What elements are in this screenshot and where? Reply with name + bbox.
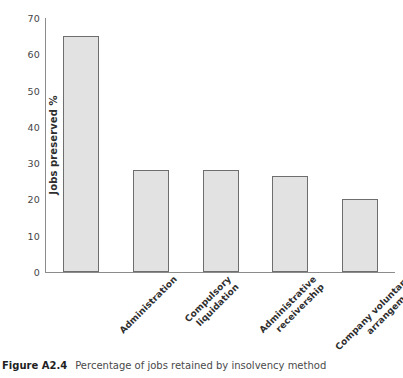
x-axis-labels: AdministrationCompulsoryliquidationAdmin… xyxy=(46,274,395,344)
figure-container: Jobs preserved % 706050403020100 Adminis… xyxy=(0,0,403,378)
figure-caption: Figure A2.4Percentage of jobs retained b… xyxy=(2,360,401,371)
y-axis-tick-label: 50 xyxy=(10,85,45,96)
bar xyxy=(272,176,308,272)
figure-caption-label: Figure A2.4 xyxy=(2,360,67,371)
bar xyxy=(63,36,99,272)
x-axis-line xyxy=(45,272,395,273)
figure-caption-text: Percentage of jobs retained by insolvenc… xyxy=(75,360,326,371)
bar xyxy=(203,170,239,272)
y-axis-tick-label: 60 xyxy=(10,49,45,60)
y-axis-tick-label: 40 xyxy=(10,121,45,132)
x-axis-category-label-line: Administration xyxy=(117,274,179,336)
x-axis-category-label: Administrativereceivership xyxy=(257,274,327,344)
y-axis-tick-label: 10 xyxy=(10,230,45,241)
y-axis-tick-label: 70 xyxy=(10,13,45,24)
x-axis-category-label: Administration xyxy=(117,274,179,336)
bar xyxy=(133,170,169,272)
y-axis-tick-label: 30 xyxy=(10,158,45,169)
x-axis-category-label: Compulsoryliquidation xyxy=(183,274,242,333)
bar-series xyxy=(46,18,395,272)
y-axis-tick-label: 0 xyxy=(10,267,45,278)
y-axis-tick-label: 20 xyxy=(10,194,45,205)
x-axis-category-label: Company voluntaryarrangement xyxy=(334,274,403,361)
bar xyxy=(342,199,378,272)
